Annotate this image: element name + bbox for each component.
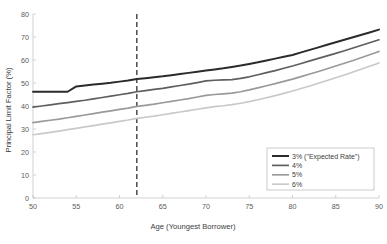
y-tick-label: 40 (21, 102, 29, 111)
x-tick-label: 85 (332, 202, 340, 211)
principal-limit-factor-line-chart: 505560657075808590 01020304050607080 Age… (0, 0, 387, 244)
y-tick-label: 60 (21, 56, 29, 65)
chart-container: 505560657075808590 01020304050607080 Age… (0, 0, 387, 244)
x-tick-label: 50 (29, 202, 37, 211)
x-tick-label: 60 (116, 202, 124, 211)
legend-label-2: 5% (292, 171, 302, 178)
legend-label-0: 3% ("Expected Rate") (292, 153, 360, 161)
x-axis-title: Age (Youngest Borrower) (151, 222, 236, 231)
y-tick-label: 10 (21, 171, 29, 180)
x-tick-label: 55 (72, 202, 80, 211)
x-tick-label: 90 (375, 202, 383, 211)
legend: 3% ("Expected Rate")4%5%6% (267, 148, 374, 190)
y-tick-label: 20 (21, 148, 29, 157)
x-tick-label: 65 (159, 202, 167, 211)
y-axis-tick-labels: 01020304050607080 (21, 10, 29, 203)
y-tick-label: 0 (25, 194, 29, 203)
legend-label-1: 4% (292, 162, 302, 169)
legend-label-3: 6% (292, 181, 302, 188)
y-tick-label: 30 (21, 125, 29, 134)
x-tick-label: 70 (202, 202, 210, 211)
y-tick-label: 80 (21, 10, 29, 19)
x-tick-label: 80 (289, 202, 297, 211)
chart-background (0, 0, 387, 244)
y-tick-label: 50 (21, 79, 29, 88)
y-axis-title: Principal Limit Factor (%) (4, 67, 13, 152)
y-tick-label: 70 (21, 33, 29, 42)
x-tick-label: 75 (245, 202, 253, 211)
